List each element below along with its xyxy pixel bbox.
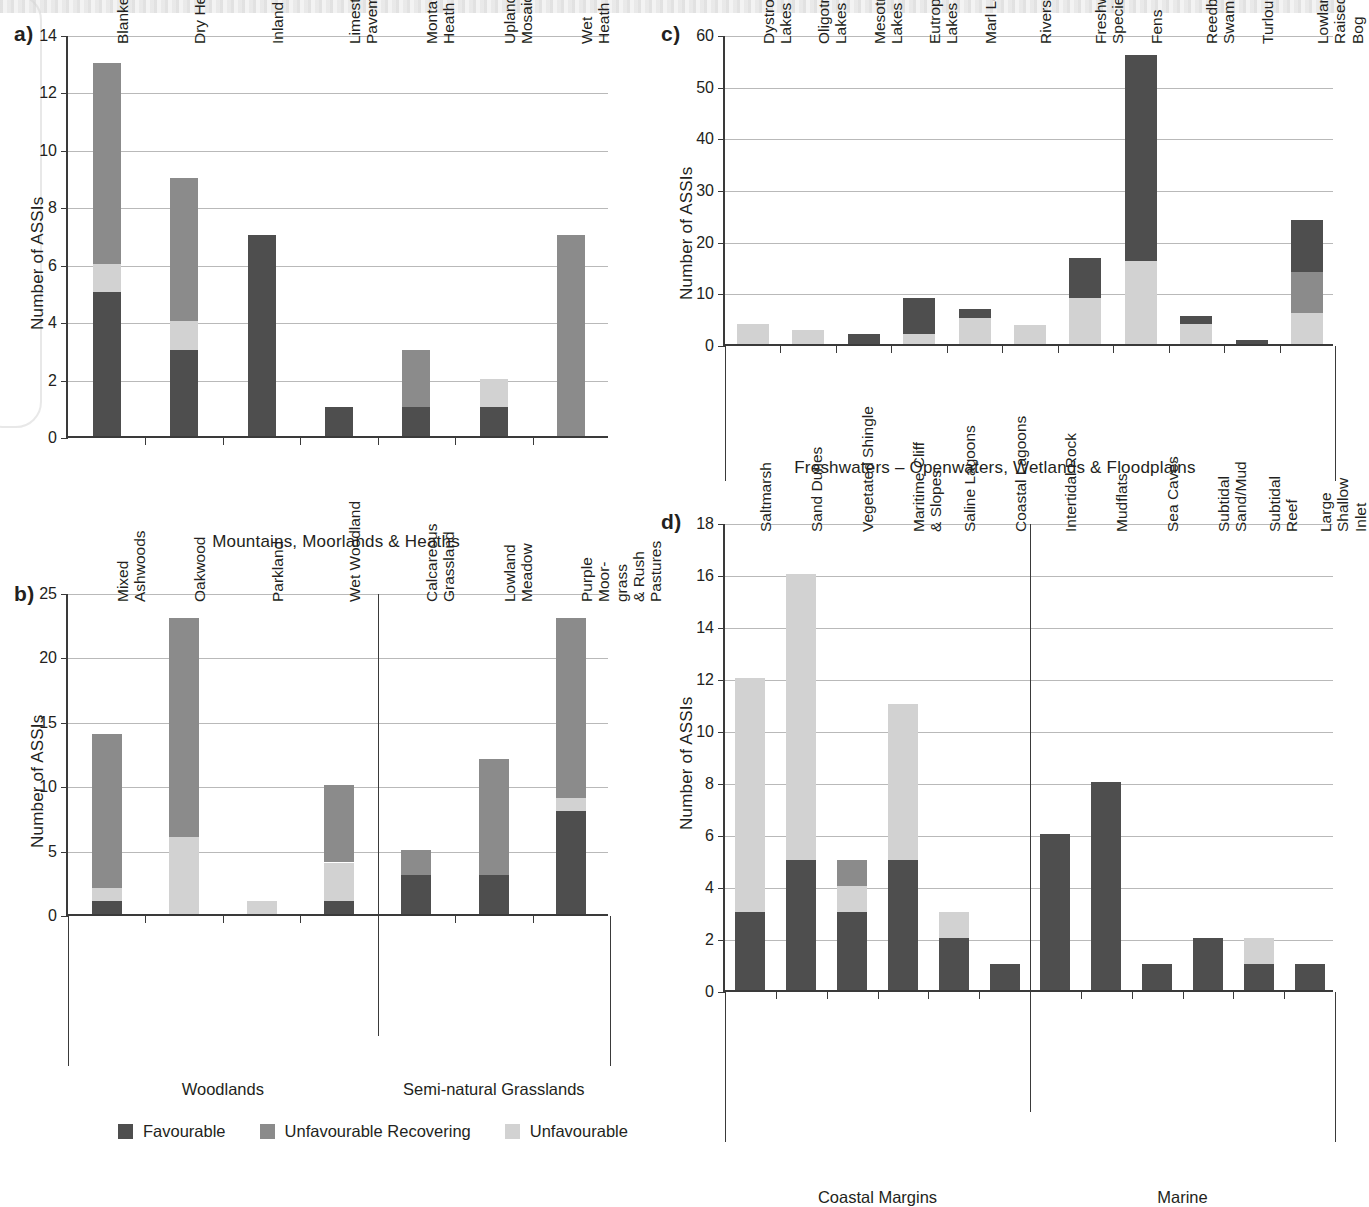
x-axis-tick <box>455 436 456 445</box>
bar-a-2[interactable] <box>248 235 276 436</box>
legend-swatch-icon <box>260 1124 275 1139</box>
bar-c-6[interactable] <box>1069 258 1101 344</box>
bar-d-7[interactable] <box>1091 782 1121 990</box>
y-axis-tick <box>61 323 68 324</box>
bar-segment-fav <box>939 938 969 990</box>
bar-b-2[interactable] <box>247 901 277 914</box>
bar-segment-fav <box>959 309 991 318</box>
bar-c-4[interactable] <box>959 309 991 344</box>
x-axis-category-label: Subtidal Reef <box>1266 465 1301 532</box>
bar-a-1[interactable] <box>170 178 198 436</box>
bar-segment-fav <box>480 407 508 436</box>
bar-a-0[interactable] <box>93 63 121 436</box>
y-axis-tick <box>718 940 725 941</box>
bar-b-3[interactable] <box>324 785 354 914</box>
y-axis-tick-label: 6 <box>705 827 714 845</box>
legend-item-rec[interactable]: Unfavourable Recovering <box>260 1122 471 1141</box>
y-axis-tick-label: 10 <box>696 285 714 303</box>
bar-c-3[interactable] <box>903 298 935 345</box>
bar-segment-fav <box>1193 938 1223 990</box>
x-axis-category-label: Montane Heath <box>423 0 458 44</box>
bar-b-1[interactable] <box>169 618 199 914</box>
bar-segment-fav <box>170 350 198 436</box>
x-axis-category-label: Mesotrophic Lakes <box>871 0 906 44</box>
y-axis-tick-label: 18 <box>696 515 714 533</box>
bar-d-9[interactable] <box>1193 938 1223 990</box>
bar-segment-rec <box>1291 272 1323 313</box>
y-axis-tick-label: 2 <box>48 372 57 390</box>
y-axis-tick-label: 14 <box>39 27 57 45</box>
bar-c-0[interactable] <box>737 324 769 344</box>
x-axis-category-label: Oligotrophic Lakes <box>815 0 850 44</box>
panel-c-letter: c) <box>661 22 681 46</box>
bar-d-11[interactable] <box>1295 964 1325 990</box>
bar-d-0[interactable] <box>735 678 765 990</box>
axis-end-rule <box>1335 992 1336 1142</box>
bar-segment-fav <box>903 298 935 334</box>
x-axis-category-label: Blanket Bog <box>114 0 131 44</box>
gridline <box>68 208 608 209</box>
y-axis-tick-label: 8 <box>48 199 57 217</box>
bar-c-5[interactable] <box>1014 325 1046 344</box>
bar-c-2[interactable] <box>848 334 880 344</box>
bar-d-4[interactable] <box>939 912 969 990</box>
bar-c-8[interactable] <box>1180 316 1212 344</box>
bar-a-3[interactable] <box>325 407 353 436</box>
x-axis-category-label: Coastal Lagoons <box>1012 416 1029 532</box>
bar-segment-fav <box>324 901 354 914</box>
x-axis-category-label: Mudflats <box>1113 473 1130 532</box>
bar-b-6[interactable] <box>556 618 586 914</box>
bar-d-3[interactable] <box>888 704 918 990</box>
bar-d-6[interactable] <box>1040 834 1070 990</box>
legend-swatch-icon <box>505 1124 520 1139</box>
bar-a-5[interactable] <box>480 379 508 436</box>
bar-d-1[interactable] <box>786 574 816 990</box>
bar-d-2[interactable] <box>837 860 867 990</box>
bar-b-0[interactable] <box>92 734 122 914</box>
bar-c-10[interactable] <box>1291 220 1323 344</box>
y-axis-tick-label: 0 <box>705 337 714 355</box>
x-axis-tick <box>223 914 224 923</box>
bar-segment-fav <box>1180 316 1212 325</box>
y-axis-title-b: Number of ASSIs <box>28 715 48 848</box>
bar-d-8[interactable] <box>1142 964 1172 990</box>
x-axis-category-label: Rivers <box>1037 0 1054 44</box>
bar-b-5[interactable] <box>479 759 509 914</box>
x-axis-tick <box>533 914 534 923</box>
x-axis-category-label: Dry Heath <box>191 0 208 44</box>
y-axis-tick-label: 2 <box>705 931 714 949</box>
bar-c-1[interactable] <box>792 330 824 344</box>
bar-c-9[interactable] <box>1236 340 1268 344</box>
bar-b-4[interactable] <box>401 850 431 914</box>
y-axis-tick <box>61 658 68 659</box>
group-separator <box>378 594 379 1036</box>
x-axis-category-label: Limestone Pavement <box>346 0 381 44</box>
x-axis-category-label: Subtidal Sand/Mud <box>1215 414 1250 532</box>
bar-a-6[interactable] <box>557 235 585 436</box>
y-axis-tick <box>61 36 68 37</box>
bar-c-7[interactable] <box>1125 55 1157 344</box>
x-axis-tick <box>776 990 777 999</box>
legend-item-fav[interactable]: Favourable <box>118 1122 226 1141</box>
y-axis-tick <box>718 888 725 889</box>
bar-d-5[interactable] <box>990 964 1020 990</box>
y-axis-tick <box>718 524 725 525</box>
axis-end-rule <box>1335 346 1336 481</box>
x-axis-category-label: Vegetated Shingle <box>859 406 876 532</box>
y-axis-tick <box>718 346 725 347</box>
bar-a-4[interactable] <box>402 350 430 436</box>
x-axis-category-label: Lowland Meadow <box>501 543 536 602</box>
bar-segment-rec <box>93 63 121 264</box>
y-axis-tick-label: 5 <box>48 843 57 861</box>
bar-d-10[interactable] <box>1244 938 1274 990</box>
x-axis-category-label: Upland Mosaic <box>501 0 536 44</box>
x-axis-category-label: Calcareous Grassland <box>423 524 458 602</box>
y-axis-tick <box>61 93 68 94</box>
x-axis-category-label: Sand Dunes <box>808 447 825 532</box>
bar-segment-unf <box>939 912 969 938</box>
chart-panel-a: a) 02468101214Blanket BogDry HeathInland… <box>0 0 660 560</box>
legend-item-unf[interactable]: Unfavourable <box>505 1122 628 1141</box>
bar-segment-fav <box>401 875 431 914</box>
gridline <box>725 139 1333 140</box>
bar-segment-rec <box>402 350 430 407</box>
